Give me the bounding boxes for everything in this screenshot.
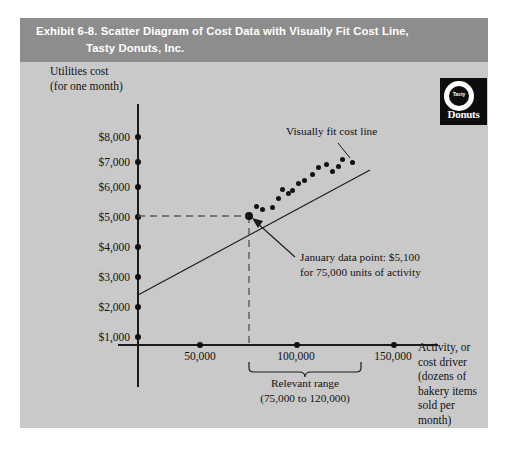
cost-line-leader (338, 143, 350, 158)
data-point (296, 181, 301, 186)
data-point (280, 187, 285, 192)
y-axis-title-line-1: Utilities cost (50, 64, 123, 79)
data-point (276, 196, 281, 201)
data-point (336, 164, 341, 169)
cost-line-label: Visually fit cost line (286, 124, 377, 139)
y-tick-label-8000: $8,000 (98, 131, 130, 143)
x-axis-title-line-1: Activity, or (418, 340, 488, 355)
y-tick-label-1000: $1,000 (98, 331, 130, 343)
y-tick-dot (135, 184, 141, 190)
relevant-range-brace (249, 362, 361, 377)
x-axis-title-line-4: bakery items (418, 384, 488, 399)
y-tick-dot (135, 159, 141, 165)
data-point (316, 165, 321, 170)
y-axis-title-line-2: (for one month) (50, 79, 123, 94)
x-tick-label-50000: 50,000 (170, 350, 230, 362)
x-axis-line (118, 344, 438, 346)
data-point (324, 162, 329, 167)
data-point (350, 160, 355, 165)
exhibit-page: Exhibit 6-8. Scatter Diagram of Cost Dat… (0, 0, 508, 464)
y-tick-label-7000: $7,000 (98, 156, 130, 168)
y-tick-label-3000: $3,000 (98, 271, 130, 283)
data-point (302, 178, 307, 183)
data-point (340, 157, 345, 162)
x-tick-dot (197, 342, 203, 348)
x-axis-title-line-5: sold per (418, 398, 488, 413)
exhibit-title-bar: Exhibit 6-8. Scatter Diagram of Cost Dat… (20, 18, 488, 62)
y-tick-dot (135, 304, 141, 310)
january-note-line-1: January data point: $5,100 (300, 250, 420, 265)
y-tick-label-2000: $2,000 (98, 301, 130, 313)
exhibit-title-line-2: Tasty Donuts, Inc. (86, 42, 486, 54)
x-axis-title-line-2: cost driver (418, 355, 488, 370)
y-tick-dot (135, 334, 141, 340)
y-tick-label-5000: $5,000 (98, 211, 130, 223)
x-axis-title: Activity, or cost driver (dozens of bake… (418, 340, 488, 427)
y-tick-dot (135, 274, 141, 280)
y-tick-label-6000: $6,000 (98, 181, 130, 193)
x-axis-title-line-3: (dozens of (418, 369, 488, 384)
annotation-arrow-line (256, 222, 295, 257)
x-tick-dot (391, 342, 397, 348)
data-point-january (245, 212, 253, 220)
x-axis-title-line-6: month) (418, 413, 488, 428)
data-point (330, 169, 335, 174)
relevant-range-values: (75,000 to 120,000) (210, 391, 400, 406)
data-point (290, 188, 295, 193)
data-point (310, 172, 315, 177)
annotation-arrow-head (252, 218, 263, 228)
exhibit-title-line-1: Exhibit 6-8. Scatter Diagram of Cost Dat… (36, 25, 476, 37)
y-tick-dot (135, 134, 141, 140)
x-tick-label-100000: 100,000 (263, 350, 329, 362)
y-tick-dot (135, 244, 141, 250)
y-tick-label-4000: $4,000 (98, 241, 130, 253)
scatter-plot: Utilities cost (for one month) $8,000 $7… (20, 62, 488, 428)
january-note-line-2: for 75,000 units of activity (300, 265, 421, 280)
y-axis-title: Utilities cost (for one month) (50, 64, 123, 94)
data-point (254, 204, 259, 209)
y-tick-dot (135, 214, 141, 220)
data-point (260, 207, 265, 212)
x-tick-dot (294, 342, 300, 348)
relevant-range-label: Relevant range (210, 376, 400, 391)
data-point (270, 205, 275, 210)
x-tick-label-150000: 150,000 (360, 350, 426, 362)
